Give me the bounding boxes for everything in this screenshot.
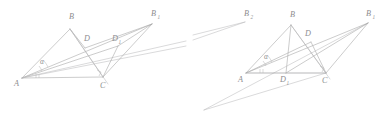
segment-A-C — [22, 77, 103, 78]
label-D: D — [83, 34, 90, 43]
label-B1-subscript: 1 — [373, 14, 376, 20]
label-C: C — [322, 76, 328, 85]
segment-B-D1 — [286, 25, 291, 73]
segment-P-B1 — [204, 23, 368, 110]
label-B1-group: B 1 — [151, 9, 161, 20]
segment-A-B — [246, 25, 291, 73]
label-D1: D — [111, 34, 118, 43]
angle-arc-outer — [268, 56, 272, 62]
label-D1-subscript: 1 — [119, 39, 122, 45]
segment-B2-left-ray-bottom — [193, 22, 245, 40]
segment-A-B — [22, 29, 70, 78]
label-B1-group: B 1 — [366, 9, 376, 20]
label-B: B — [290, 10, 295, 19]
label-A: A — [13, 79, 20, 88]
right-angle-mark-C — [97, 70, 101, 76]
label-alpha: α — [40, 57, 44, 66]
segment-A-D — [246, 42, 311, 73]
label-D: D — [304, 29, 311, 38]
label-B2: B — [244, 9, 249, 18]
label-C: C — [100, 81, 106, 90]
label-D1: D — [279, 75, 286, 84]
left-construction: A B C D D 1 B 1 α — [13, 9, 186, 90]
label-D1-group: D 1 — [279, 75, 290, 86]
right-angle-mark-C — [320, 66, 324, 72]
label-A: A — [237, 75, 244, 84]
label-B1-subscript: 1 — [158, 14, 161, 20]
segment-C-B1 — [326, 23, 368, 73]
segment-A-far-ray — [22, 41, 186, 78]
segment-P-C — [204, 73, 326, 110]
right-construction: A B C D D 1 B 1 B 2 α — [193, 9, 376, 110]
segment-B2-left-ray-top — [193, 22, 245, 35]
label-alpha: α — [264, 52, 268, 61]
label-B2-group: B 2 — [244, 9, 254, 20]
label-D1-subscript: 1 — [287, 80, 290, 86]
label-B2-subscript: 2 — [251, 14, 254, 20]
angle-arc-outer — [44, 61, 48, 67]
label-B1: B — [366, 9, 371, 18]
geometry-figure: A B C D D 1 B 1 α — [0, 0, 386, 123]
label-B: B — [69, 12, 74, 21]
label-B1: B — [151, 9, 156, 18]
